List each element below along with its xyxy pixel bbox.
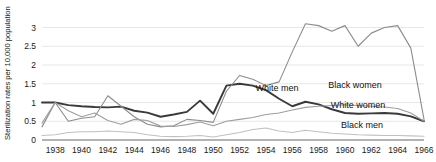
x-tick-label: 1954 [256,145,275,155]
x-tick-label: 1940 [72,145,91,155]
line-chart: 00.511.522.53 19381940194219441946194819… [0,0,436,162]
x-tick-label: 1938 [46,145,65,155]
y-axis-title: Sterilization rates per 10,000 populatio… [3,6,12,140]
x-tick-label: 1962 [362,145,381,155]
y-tick-label: 2.5 [24,41,36,51]
series-line-black-women [42,24,424,127]
y-tick-label: 1.5 [24,79,36,89]
x-tick-label: 1948 [177,145,196,155]
x-axis-tick-labels: 1938194019421944194619481950195219541956… [46,145,434,155]
x-tick-label: 1958 [309,145,328,155]
x-tick-label: 1952 [230,145,249,155]
series-label-white-men: White men [255,83,298,93]
y-tick-label: 2 [31,60,36,70]
x-tick-label: 1942 [98,145,117,155]
chart-canvas: 00.511.522.53 19381940194219441946194819… [0,0,436,162]
x-tick-label: 1944 [125,145,144,155]
x-tick-label: 1960 [336,145,355,155]
y-axis-tick-labels: 00.511.522.53 [24,23,36,146]
x-tick-label: 1946 [151,145,170,155]
y-tick-label: 0 [31,135,36,145]
y-tick-label: 1 [31,98,36,108]
x-tick-label: 1950 [204,145,223,155]
series-label-black-men: Black men [341,120,383,130]
x-tick-label: 1956 [283,145,302,155]
y-tick-label: 3 [31,23,36,33]
x-tick-label: 1966 [415,145,434,155]
series-label-black-women: Black women [328,80,382,90]
x-tick-label: 1964 [388,145,407,155]
series-label-white-women: White women [331,100,386,110]
y-tick-label: 0.5 [24,116,36,126]
